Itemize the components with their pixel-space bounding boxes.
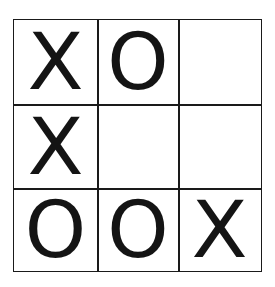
cell-r3-c1[interactable]: O: [14, 189, 97, 270]
cell-r1-c1[interactable]: X: [12, 20, 99, 104]
tic-tac-toe-board: X O X O O X: [13, 19, 262, 272]
cell-r1-c2[interactable]: O: [98, 20, 178, 104]
cell-r3-c3[interactable]: X: [177, 189, 262, 270]
cell-r1-c3[interactable]: [179, 20, 260, 104]
cell-r2-c3[interactable]: [179, 105, 260, 188]
cell-r3-c2[interactable]: O: [98, 189, 178, 270]
cell-r2-c2[interactable]: [98, 105, 178, 188]
cell-r2-c1[interactable]: X: [12, 105, 99, 188]
